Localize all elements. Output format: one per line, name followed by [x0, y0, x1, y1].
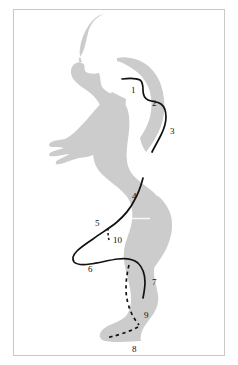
running-figure-diagram	[0, 0, 238, 365]
chain-line-dashed-tick-10	[108, 228, 109, 240]
figure-frame: 1 2 3 4 5 6 7 8 9 10	[0, 0, 238, 365]
callout-label-9: 9	[144, 311, 149, 320]
body-silhouette-path	[71, 14, 166, 342]
callout-label-4: 4	[132, 192, 137, 201]
callout-label-6: 6	[88, 265, 93, 274]
callout-label-2: 2	[152, 99, 157, 108]
runner-silhouette	[49, 14, 172, 342]
callout-label-1: 1	[131, 86, 136, 95]
callout-label-8: 8	[132, 345, 137, 354]
callout-label-3: 3	[170, 127, 175, 136]
callout-label-7: 7	[152, 278, 157, 287]
callout-label-5: 5	[95, 219, 100, 228]
callout-label-10: 10	[113, 236, 122, 245]
